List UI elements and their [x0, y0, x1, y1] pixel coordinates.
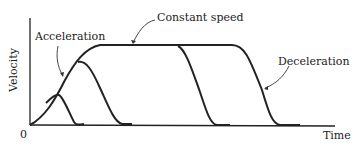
small-profile-curve [46, 95, 84, 125]
constant-speed-arrowhead-icon [131, 40, 136, 44]
constant-speed-arrow [133, 20, 155, 43]
medium-profile-curve [78, 62, 132, 124]
origin-label: 0 [20, 128, 27, 141]
acceleration-arrowhead-icon [60, 72, 64, 77]
velocity-time-diagram: Velocity 0 Time Acceleration Constant sp… [0, 0, 359, 148]
long-profile-curve [178, 46, 230, 125]
acceleration-arrow [57, 46, 63, 76]
deceleration-arrowhead-icon [264, 86, 268, 90]
y-axis-label: Velocity [7, 48, 20, 92]
constant-speed-label: Constant speed [157, 11, 244, 24]
deceleration-label: Deceleration [278, 55, 350, 68]
deceleration-arrow [265, 66, 289, 88]
acceleration-label: Acceleration [35, 30, 105, 43]
x-axis-label: Time [323, 129, 351, 142]
